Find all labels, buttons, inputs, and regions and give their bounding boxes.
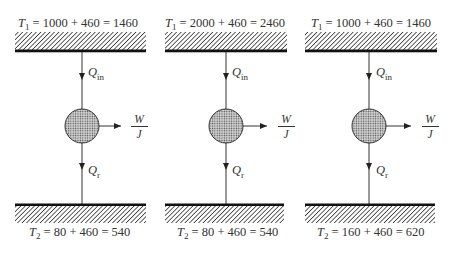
cold-reservoir-label: T2 = 80 + 460 = 540	[29, 226, 130, 241]
work-numerator: W	[134, 113, 144, 125]
hot-reservoir-hatch	[305, 32, 437, 50]
t1-symbol: T	[311, 16, 318, 30]
q-symbol: Q	[232, 65, 241, 79]
engine-circle	[209, 109, 243, 143]
cold-reservoir-label: T2 = 80 + 460 = 540	[177, 226, 278, 241]
t2-expression: = 160 + 460 = 620	[328, 225, 424, 239]
hot-reservoir-hatch	[165, 32, 287, 50]
q-subscript: in	[97, 72, 104, 82]
hot-reservoir-wall	[305, 50, 437, 53]
heat-in-arrow-icon	[223, 73, 229, 80]
cold-reservoir-hatch	[15, 206, 146, 223]
heat-rejected-arrow-icon	[223, 163, 229, 170]
heat-rejected-arrow-icon	[366, 163, 372, 170]
cold-reservoir-wall	[15, 204, 146, 207]
q-subscript: in	[385, 72, 392, 82]
heat-rejected-arrow-icon	[79, 163, 85, 170]
heat-in-arrow-icon	[366, 73, 372, 80]
fraction-bar	[131, 126, 148, 127]
work-denominator: J	[283, 128, 288, 140]
cold-reservoir-wall	[165, 204, 284, 207]
diagram-graphics	[0, 0, 453, 259]
q-subscript: in	[241, 72, 248, 82]
hot-reservoir-label: T1 = 2000 + 460 = 2460	[165, 17, 285, 32]
cold-reservoir-wall	[305, 204, 435, 207]
t1-expression: = 1000 + 460 = 1460	[322, 16, 431, 30]
t2-expression: = 80 + 460 = 540	[40, 225, 130, 239]
hot-reservoir-wall	[165, 50, 287, 53]
work-over-j-label: WJ	[130, 113, 148, 140]
engine-circle	[65, 109, 99, 143]
engine-circle	[352, 109, 386, 143]
heat-in-label: Qin	[88, 66, 104, 82]
q-symbol: Q	[88, 65, 97, 79]
work-numerator: W	[281, 113, 291, 125]
work-numerator: W	[425, 113, 435, 125]
t1-symbol: T	[18, 16, 25, 30]
heat-in-label: Qin	[376, 66, 392, 82]
t2-symbol: T	[177, 225, 184, 239]
fraction-bar	[422, 126, 439, 127]
t2-symbol: T	[29, 225, 36, 239]
heat-engine-figure: T1 = 1000 + 460 = 1460 Qin WJ Qr T2 = 80…	[0, 0, 453, 259]
engine-panel-2	[165, 32, 287, 223]
q-symbol: Q	[376, 65, 385, 79]
hot-reservoir-label: T1 = 1000 + 460 = 1460	[18, 17, 138, 32]
q-subscript: r	[385, 170, 388, 180]
cold-reservoir-hatch	[305, 206, 435, 223]
work-over-j-label: WJ	[421, 113, 439, 140]
q-subscript: r	[97, 170, 100, 180]
heat-rejected-label: Qr	[376, 164, 388, 180]
q-symbol: Q	[232, 163, 241, 177]
hot-reservoir-wall	[15, 50, 146, 53]
t2-expression: = 80 + 460 = 540	[188, 225, 278, 239]
hot-reservoir-label: T1 = 1000 + 460 = 1460	[311, 17, 431, 32]
cold-reservoir-label: T2 = 160 + 460 = 620	[317, 226, 425, 241]
hot-reservoir-hatch	[15, 32, 146, 50]
fraction-bar	[278, 126, 295, 127]
q-symbol: Q	[376, 163, 385, 177]
work-denominator: J	[136, 128, 141, 140]
cold-reservoir-hatch	[165, 206, 284, 223]
t2-symbol: T	[317, 225, 324, 239]
heat-rejected-label: Qr	[88, 164, 100, 180]
heat-in-arrow-icon	[79, 73, 85, 80]
q-symbol: Q	[88, 163, 97, 177]
heat-in-label: Qin	[232, 66, 248, 82]
t1-expression: = 1000 + 460 = 1460	[29, 16, 138, 30]
t1-symbol: T	[165, 16, 172, 30]
q-subscript: r	[241, 170, 244, 180]
engine-panel-3	[305, 32, 437, 223]
heat-rejected-label: Qr	[232, 164, 244, 180]
work-over-j-label: WJ	[277, 113, 295, 140]
work-denominator: J	[427, 128, 432, 140]
engine-panel-1	[15, 32, 146, 223]
t1-expression: = 2000 + 460 = 2460	[176, 16, 285, 30]
